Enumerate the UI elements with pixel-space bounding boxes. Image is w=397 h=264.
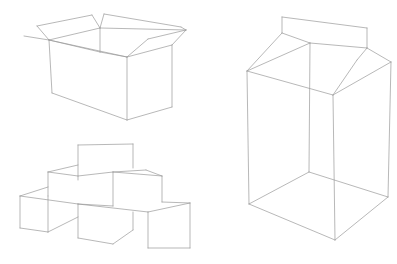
drawing-canvas [0, 0, 397, 264]
background [0, 0, 397, 264]
